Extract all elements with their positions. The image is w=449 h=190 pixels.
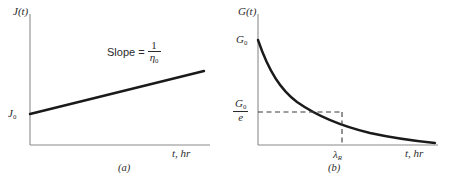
g-zero-over-e-label: G0 e xyxy=(233,98,248,123)
x-axis-label-b: t, hr xyxy=(405,148,423,159)
slope-annotation: Slope = 1 η0 xyxy=(107,40,161,65)
y-axis-label-a: J(t) xyxy=(13,6,28,17)
slope-denominator: η0 xyxy=(148,51,161,65)
x-axis-label-a: t, hr xyxy=(172,148,190,159)
panel-a-creep-compliance: J(t) J0 Slope = 1 η0 t, hr (a) xyxy=(0,0,224,190)
g-over-e-fraction: G0 e xyxy=(233,98,248,123)
g-over-e-denominator: e xyxy=(233,111,248,123)
slope-numerator: 1 xyxy=(148,40,161,51)
lambda-r-label: λR xyxy=(333,149,342,162)
panel-b-relaxation-modulus: G(t) G0 G0 e λR t, hr (b) xyxy=(225,0,449,190)
figure-container: J(t) J0 Slope = 1 η0 t, hr (a) xyxy=(0,0,449,190)
creep-compliance-curve xyxy=(30,71,204,114)
g-over-e-numerator: G0 xyxy=(233,98,248,111)
g-zero-label: G0 xyxy=(236,34,247,47)
j-zero-label: J0 xyxy=(8,108,16,121)
panel-a-plot xyxy=(0,0,224,190)
slope-fraction: 1 η0 xyxy=(148,40,161,65)
panel-b-caption: (b) xyxy=(328,163,340,174)
y-axis-label-b: G(t) xyxy=(238,6,256,17)
panel-a-caption: (a) xyxy=(118,163,130,174)
slope-annotation-text: Slope = xyxy=(107,47,145,58)
relaxation-modulus-curve xyxy=(258,40,435,143)
